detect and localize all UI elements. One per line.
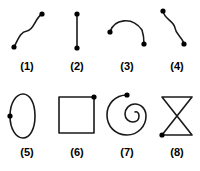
shape-4-label: (4) (152, 60, 200, 73)
shape-7-endpoint-dot-a (124, 92, 129, 97)
figure-item-1: (1) (2, 2, 52, 73)
shape-1-endpoint-dot-b (39, 11, 44, 16)
shape-8-canvas (152, 88, 200, 146)
shape-6-path (59, 97, 94, 133)
shape-6-canvas (52, 88, 102, 146)
shape-7-canvas (102, 88, 152, 146)
shape-3-canvas (102, 2, 152, 60)
shape-1-label: (1) (2, 60, 52, 73)
shape-2-endpoint-dot-b (74, 45, 79, 50)
shape-5-label: (5) (2, 146, 52, 159)
shape-8-label: (8) (152, 146, 200, 159)
shape-5-path (10, 94, 35, 138)
shape-3-label: (3) (102, 60, 152, 73)
shape-1-path (14, 14, 42, 47)
shape-6-endpoint-dot-a (91, 94, 96, 99)
shape-4-path (163, 11, 184, 44)
shape-4-endpoint-dot-a (160, 8, 165, 13)
figure-item-5: (5) (2, 88, 52, 159)
shape-6-label: (6) (52, 146, 102, 159)
figure-item-2: (2) (52, 2, 102, 73)
figure-item-3: (3) (102, 2, 152, 73)
figure-item-6: (6) (52, 88, 102, 159)
shape-4-endpoint-dot-b (181, 41, 186, 46)
figure-item-4: (4) (152, 2, 200, 73)
shape-8-path (162, 97, 192, 135)
shape-3-endpoint-dot-b (141, 41, 146, 46)
shape-5-endpoint-dot-a (7, 113, 12, 118)
shape-2-label: (2) (52, 60, 102, 73)
shape-8-endpoint-dot-a (159, 132, 164, 137)
shape-4-canvas (152, 2, 200, 60)
shape-1-canvas (2, 2, 52, 60)
shape-2-endpoint-dot-a (74, 11, 79, 16)
shape-3-endpoint-dot-a (107, 29, 112, 34)
shape-5-canvas (2, 88, 52, 146)
shape-7-label: (7) (102, 146, 152, 159)
figure-item-8: (8) (152, 88, 200, 159)
shape-1-endpoint-dot-a (11, 44, 16, 49)
shape-3-path (110, 21, 144, 44)
figure-item-7: (7) (102, 88, 152, 159)
curve-figure-panel: (1) (2) (3) (4) (5) (0, 0, 200, 171)
shape-7-path (107, 95, 146, 135)
shape-2-canvas (52, 2, 102, 60)
